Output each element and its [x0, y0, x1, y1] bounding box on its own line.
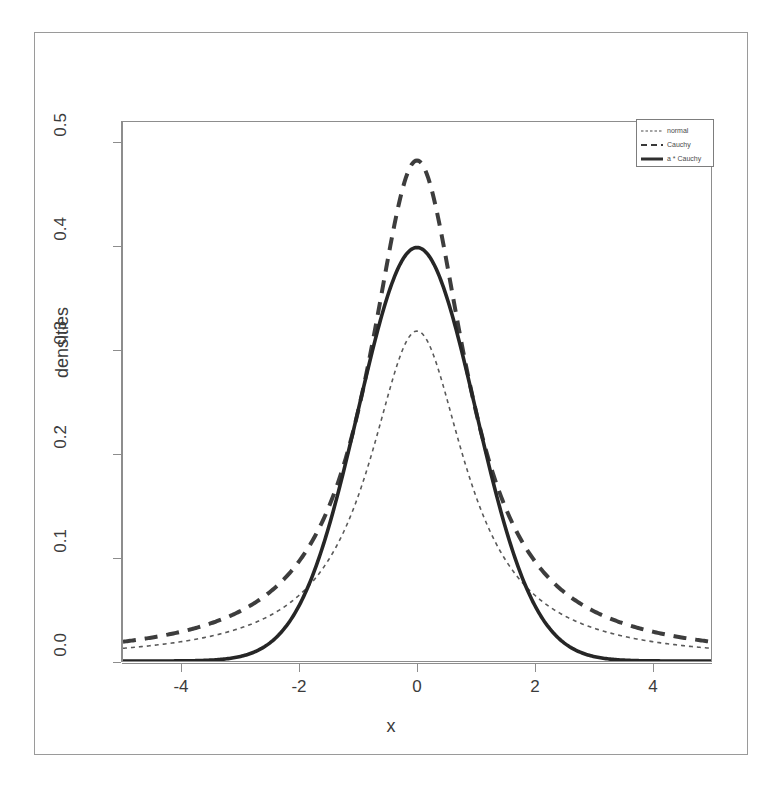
y-axis-line — [121, 121, 122, 662]
density-curve — [123, 160, 711, 641]
legend-label-cauchy: Cauchy — [667, 140, 691, 149]
x-tick-label: 4 — [631, 677, 675, 697]
x-tick-mark — [181, 664, 182, 672]
y-tick-label: 0.0 — [51, 633, 71, 691]
x-tick-mark — [299, 664, 300, 672]
x-tick-mark — [535, 664, 536, 672]
x-tick-mark — [653, 664, 654, 672]
y-tick-mark — [113, 662, 121, 663]
y-tick-mark — [113, 454, 121, 455]
density-curve — [123, 247, 711, 661]
legend-item-cauchy: Cauchy — [641, 138, 710, 151]
x-tick-label: -2 — [277, 677, 321, 697]
thin-dotted-line-key — [641, 126, 663, 136]
plot-curves — [123, 122, 711, 661]
y-tick-label: 0.2 — [51, 425, 71, 483]
density-plot-figure: -4-2024 0.00.10.20.30.40.5 x densities n… — [34, 32, 748, 755]
legend-label-normal: normal — [667, 126, 688, 135]
x-tick-label: 2 — [513, 677, 557, 697]
y-tick-mark — [113, 246, 121, 247]
y-tick-label: 0.1 — [51, 529, 71, 587]
legend: normal Cauchy a * Cauchy — [636, 119, 714, 167]
y-tick-mark — [113, 142, 121, 143]
plot-area — [122, 121, 712, 662]
dashed-line-key — [641, 140, 663, 150]
legend-label-a-cauchy: a * Cauchy — [667, 154, 701, 163]
x-tick-label: 0 — [395, 677, 439, 697]
x-axis-title: x — [34, 716, 748, 737]
legend-item-a-cauchy: a * Cauchy — [641, 152, 710, 165]
y-tick-label: 0.5 — [51, 113, 71, 171]
x-tick-label: -4 — [159, 677, 203, 697]
thick-solid-line-key — [641, 154, 663, 164]
y-tick-mark — [113, 350, 121, 351]
density-curve — [123, 331, 711, 648]
legend-item-normal: normal — [641, 124, 710, 137]
y-axis-title: densities — [52, 253, 73, 433]
y-tick-mark — [113, 558, 121, 559]
x-tick-mark — [417, 664, 418, 672]
